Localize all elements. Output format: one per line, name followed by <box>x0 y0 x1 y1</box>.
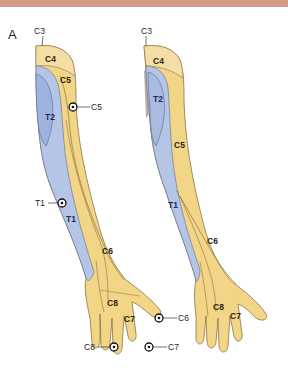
right-label-c7: C7 <box>230 311 241 321</box>
left-label-c8: C8 <box>107 298 118 308</box>
right-label-c8: C8 <box>213 302 224 312</box>
left-label-t2: T2 <box>45 112 55 122</box>
right-label-c4: C4 <box>153 56 164 66</box>
test-label-c6: C6 <box>178 313 189 323</box>
test-label-c5: C5 <box>91 102 102 112</box>
test-point-c6: C6 <box>155 313 189 323</box>
panel-label: A <box>8 27 17 42</box>
left-label-c5: C5 <box>60 75 71 85</box>
test-point-c7: C7 <box>145 342 179 352</box>
right-label-c6: C6 <box>207 236 218 246</box>
dermatome-figure: A C3 C4 C5 T2 T1 C6 C8 C7 C5 T1 C6 <box>0 0 288 381</box>
test-point-t1: T1 <box>35 198 66 208</box>
test-label-c8: C8 <box>84 342 95 352</box>
right-label-c5: C5 <box>174 140 185 150</box>
left-label-c3: C3 <box>34 26 45 36</box>
left-label-c4: C4 <box>45 54 56 64</box>
left-label-c7: C7 <box>124 314 135 324</box>
test-label-c7: C7 <box>168 342 179 352</box>
left-label-c6: C6 <box>102 246 113 256</box>
right-label-t2: T2 <box>153 94 163 104</box>
right-label-t1: T1 <box>168 200 178 210</box>
right-arm-diagram: C3 C4 T2 C5 T1 C6 C8 C7 <box>141 26 267 352</box>
test-point-c5: C5 <box>69 102 102 112</box>
test-label-t1: T1 <box>35 198 45 208</box>
right-label-c3: C3 <box>141 26 152 36</box>
left-label-t1: T1 <box>66 214 76 224</box>
